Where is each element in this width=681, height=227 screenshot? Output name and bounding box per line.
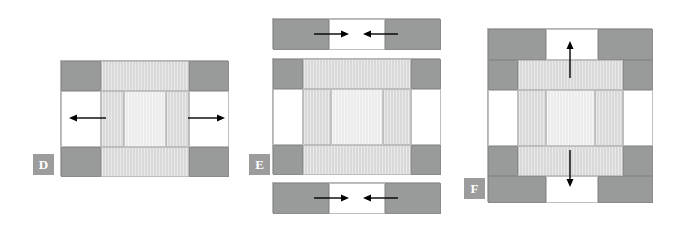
panel-e-corner-bottom-right (411, 145, 441, 175)
panel-d-corner-bottom-right (189, 147, 229, 177)
panel-f-bar-right (595, 90, 623, 146)
panel-f-corner-bottom-right (623, 146, 653, 176)
panel-e-gap-left (273, 89, 303, 145)
panel-e-bottom-strip-arrow-left (362, 190, 400, 206)
panel-e-core (331, 89, 383, 145)
panel-d-bar-bottom (101, 147, 189, 177)
panel-d-corner-top-left (61, 61, 101, 91)
panel-f-outer-bottom-right (598, 176, 653, 203)
panel-e-top-strip-arrow-left (362, 26, 400, 42)
panel-e-bottom-strip-arrow-right (312, 190, 350, 206)
panel-e-frame (272, 58, 440, 174)
panel-f-gap-right (623, 90, 653, 146)
panel-f-corner-bottom-left (488, 146, 518, 176)
panel-f-core (546, 90, 595, 146)
panel-f-label-badge: F (464, 178, 485, 199)
panel-d-bar-top (101, 61, 189, 91)
panel-e-top-strip-arrow-right (312, 26, 350, 42)
panel-f-arrow-up (562, 40, 578, 80)
panel-e-corner-top-left (273, 59, 303, 89)
panel-f-arrow-down (562, 148, 578, 188)
panel-f-outer-top-right (598, 29, 653, 60)
panel-f-outer-top-left (488, 29, 546, 60)
panel-e-bar-bottom (303, 145, 411, 175)
panel-e-gap-right (411, 89, 441, 145)
panel-d-arrow-right (186, 110, 226, 126)
panel-e-bar-top (303, 59, 411, 89)
panel-d-label-badge: D (33, 154, 54, 175)
panel-f-outer-bottom-left (488, 176, 546, 203)
panel-e-bar-right (383, 89, 411, 145)
panel-f-bar-left (518, 90, 546, 146)
panel-f-gap-left (488, 90, 518, 146)
panel-f-corner-top-left (488, 60, 518, 90)
panel-d-core (124, 91, 166, 147)
panel-e-label-badge: E (249, 154, 270, 175)
panel-e-corner-bottom-left (273, 145, 303, 175)
panel-d-arrow-left (68, 110, 108, 126)
panel-f-corner-top-right (623, 60, 653, 90)
panel-e-top-strip (272, 18, 440, 49)
panel-e-bottom-strip (272, 182, 440, 213)
panel-d-corner-top-right (189, 61, 229, 91)
panel-e-corner-top-right (411, 59, 441, 89)
panel-d-corner-bottom-left (61, 147, 101, 177)
panel-e-bar-left (303, 89, 331, 145)
figure-canvas: D (0, 0, 681, 227)
